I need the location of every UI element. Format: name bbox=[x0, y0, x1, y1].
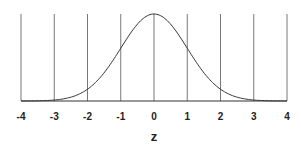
x-tick-label: 2 bbox=[218, 111, 224, 122]
normal-distribution-chart: -4-3-2-101234 z bbox=[0, 0, 301, 153]
x-tick-label: -4 bbox=[17, 111, 26, 122]
x-axis-label: z bbox=[151, 129, 158, 144]
x-tick-label: 0 bbox=[151, 111, 157, 122]
x-tick-label: -1 bbox=[116, 111, 125, 122]
x-tick-label: 1 bbox=[184, 111, 190, 122]
x-tick-label: 4 bbox=[284, 111, 290, 122]
x-tick-label: -2 bbox=[83, 111, 92, 122]
x-tick-label: -3 bbox=[50, 111, 59, 122]
x-tick-labels: -4-3-2-101234 bbox=[17, 111, 291, 122]
vertical-gridlines bbox=[21, 14, 287, 101]
x-tick-label: 3 bbox=[251, 111, 257, 122]
